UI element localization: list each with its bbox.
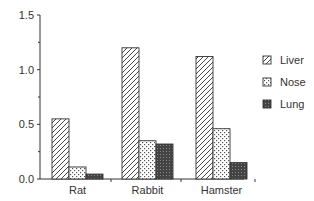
legend-swatch-nose bbox=[263, 78, 271, 86]
y-tick-label: 0.5 bbox=[19, 118, 34, 130]
bar-nose bbox=[139, 141, 156, 179]
bars bbox=[52, 48, 247, 179]
legend-swatch-lung bbox=[263, 100, 271, 108]
legend-label: Nose bbox=[280, 76, 306, 88]
bar-nose bbox=[69, 167, 86, 179]
y-tick-label: 1.0 bbox=[19, 64, 34, 76]
bar-liver bbox=[52, 119, 69, 179]
y-tick-label: 1.5 bbox=[19, 9, 34, 21]
bar-lung bbox=[86, 174, 103, 179]
bar-liver bbox=[122, 48, 139, 179]
bar-nose bbox=[213, 129, 230, 179]
x-tick-label: Rat bbox=[69, 184, 86, 196]
bar-lung bbox=[230, 163, 247, 179]
bar-liver bbox=[196, 57, 213, 179]
legend-label: Liver bbox=[280, 54, 304, 66]
bar-lung bbox=[156, 144, 173, 179]
bar-chart: 0.00.51.01.5RatRabbitHamster LiverNoseLu… bbox=[0, 0, 314, 201]
x-tick-label: Hamster bbox=[201, 184, 243, 196]
legend-label: Lung bbox=[280, 98, 304, 110]
chart-canvas: 0.00.51.01.5RatRabbitHamster LiverNoseLu… bbox=[0, 0, 314, 201]
x-tick-label: Rabbit bbox=[132, 184, 164, 196]
legend: LiverNoseLung bbox=[263, 54, 306, 110]
legend-swatch-liver bbox=[263, 56, 271, 64]
y-tick-label: 0.0 bbox=[19, 173, 34, 185]
